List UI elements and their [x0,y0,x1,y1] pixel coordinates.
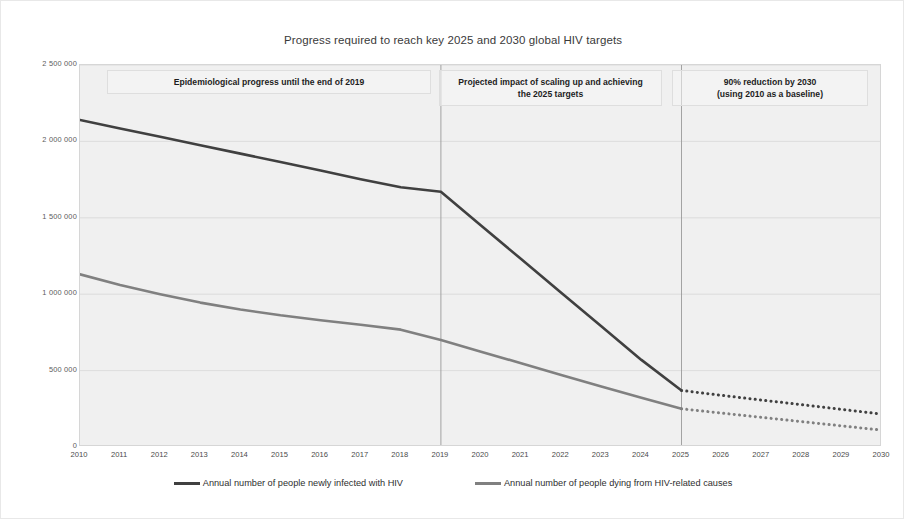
x-tick-label: 2013 [179,450,219,459]
legend-label: Annual number of people dying from HIV-r… [504,478,732,488]
x-tick-label: 2014 [219,450,259,459]
x-tick-label: 2010 [59,450,99,459]
y-tick-label: 2 000 000 [5,135,77,144]
chart-title: Progress required to reach key 2025 and … [1,34,904,46]
x-tick-label: 2026 [701,450,741,459]
y-tick-label: 2 500 000 [5,59,77,68]
x-tick-label: 2027 [741,450,781,459]
x-axis: 2010201120122013201420152016201720182019… [79,450,881,464]
x-tick-label: 2030 [861,450,901,459]
y-tick-label: 0 [5,441,77,450]
series-line-0 [80,120,682,390]
panel-header-epidemiological: Epidemiological progress until the end o… [107,70,431,94]
y-tick-label: 500 000 [5,365,77,374]
x-tick-label: 2017 [340,450,380,459]
panel-header-2-line1: 90% reduction by 2030 [673,76,867,88]
x-tick-label: 2024 [620,450,660,459]
x-tick-label: 2018 [380,450,420,459]
chart-figure: Progress required to reach key 2025 and … [0,0,904,519]
plot-svg [80,65,881,446]
x-tick-label: 2011 [99,450,139,459]
panel-header-1-line2: the 2025 targets [440,88,661,100]
series-paths [80,120,881,430]
panel-header-2-line2: (using 2010 as a baseline) [673,88,867,100]
x-tick-label: 2021 [500,450,540,459]
x-tick-label: 2019 [420,450,460,459]
plot-area: Epidemiological progress until the end o… [79,64,881,446]
legend-item-0[interactable]: Annual number of people newly infected w… [174,478,403,488]
gridlines [80,65,881,446]
legend-swatch-icon [174,482,200,485]
panel-header-1-line1: Projected impact of scaling up and achie… [440,76,661,88]
panel-header-reduction: 90% reduction by 2030 (using 2010 as a b… [672,70,868,106]
x-tick-label: 2028 [781,450,821,459]
x-tick-label: 2020 [460,450,500,459]
panel-header-0-line1: Epidemiological progress until the end o… [108,76,430,88]
chart-legend: Annual number of people newly infected w… [1,478,904,488]
y-tick-label: 1 000 000 [5,288,77,297]
series-dotted-1 [682,409,882,430]
y-axis: 2 500 0002 000 0001 500 0001 000 000500 … [1,1,77,519]
x-tick-label: 2025 [661,450,701,459]
x-tick-label: 2016 [300,450,340,459]
x-tick-label: 2012 [139,450,179,459]
y-tick-label: 1 500 000 [5,212,77,221]
x-tick-label: 2022 [540,450,580,459]
panel-dividers [441,65,682,446]
legend-label: Annual number of people newly infected w… [203,478,403,488]
legend-item-1[interactable]: Annual number of people dying from HIV-r… [475,478,732,488]
legend-swatch-icon [475,482,501,485]
x-tick-label: 2023 [580,450,620,459]
x-tick-label: 2029 [821,450,861,459]
series-dotted-0 [682,390,882,414]
x-tick-label: 2015 [260,450,300,459]
panel-header-projected: Projected impact of scaling up and achie… [439,70,662,106]
